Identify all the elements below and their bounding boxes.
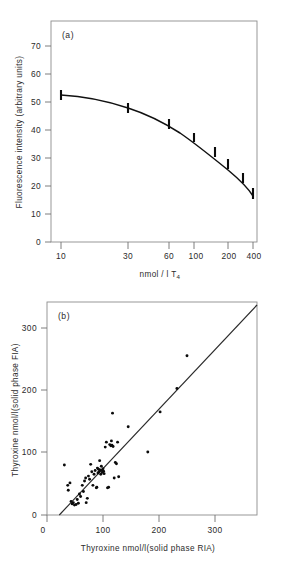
- scatter-point: [82, 490, 85, 493]
- scatter-point: [100, 465, 103, 468]
- chart-panel-b: 0 100 200 300 0 100 200 300 Thyroxine nm…: [0, 288, 282, 573]
- y-ticklabel-20: 20: [31, 181, 41, 191]
- scatter-point: [115, 462, 118, 465]
- scatter-point: [111, 412, 114, 415]
- y-ticklabel-50: 50: [31, 97, 41, 107]
- scatter-point: [175, 387, 178, 390]
- scatter-point: [87, 475, 90, 478]
- panel-b-x-axis-title: Thyroxine nmol/l(solid phase RIA): [81, 544, 215, 553]
- y-ticklabel-100: 100: [22, 447, 37, 457]
- scatter-point: [69, 481, 72, 484]
- x-ticklabel-60: 60: [164, 251, 174, 261]
- scatter-point: [90, 470, 93, 473]
- scatter-point: [94, 469, 97, 472]
- scatter-point: [186, 354, 189, 357]
- scatter-point: [78, 493, 81, 496]
- x-ticklabel-400: 400: [246, 251, 261, 261]
- scatter-point: [98, 459, 101, 462]
- y-ticklabel-10: 10: [31, 209, 41, 219]
- panel-a-y-axis: 0 10 20 30 40 50 60 70: [31, 41, 51, 247]
- x-ticklabel-30: 30: [123, 251, 133, 261]
- x-ticklabel-200: 200: [151, 525, 166, 535]
- scatter-point: [67, 489, 70, 492]
- scatter-point: [93, 473, 96, 476]
- panel-b-svg: 0 100 200 300 0 100 200 300 Thyroxine nm…: [0, 288, 282, 573]
- scatter-point: [113, 477, 116, 480]
- x-axis-title-sub: 4: [177, 273, 181, 280]
- panel-a-label: (a): [62, 30, 74, 40]
- chart-panel-a: 0 10 20 30 40 50 60 70 10 30 60 100: [0, 0, 282, 288]
- y-ticklabel-40: 40: [31, 125, 41, 135]
- scatter-point: [81, 484, 84, 487]
- scatter-point: [85, 501, 88, 504]
- scatter-point: [84, 477, 87, 480]
- y-ticklabel-60: 60: [31, 69, 41, 79]
- y-ticklabel-30: 30: [31, 153, 41, 163]
- x-ticklabel-10: 10: [56, 251, 66, 261]
- scatter-point: [105, 441, 108, 444]
- x-ticklabel-200: 200: [221, 251, 236, 261]
- panel-a-plot-frame: [51, 21, 257, 242]
- x-ticklabel-300: 300: [207, 525, 222, 535]
- y-ticklabel-200: 200: [22, 385, 37, 395]
- scatter-point: [110, 439, 113, 442]
- scatter-point: [83, 480, 86, 483]
- scatter-point: [104, 446, 107, 449]
- panel-a-y-axis-title: Fluorescence intensity (arbitrary units): [15, 56, 24, 209]
- scatter-point: [63, 464, 66, 467]
- scatter-point: [117, 475, 120, 478]
- scatter-point: [79, 495, 82, 498]
- panel-b-label: (b): [58, 311, 70, 321]
- figure-container: 0 10 20 30 40 50 60 70 10 30 60 100: [0, 0, 282, 573]
- panel-b-scatter-points: [63, 354, 189, 506]
- x-ticklabel-0: 0: [40, 525, 45, 535]
- scatter-point: [159, 410, 162, 413]
- x-axis-title-main: nmol / l T: [140, 270, 177, 279]
- scatter-point: [95, 486, 98, 489]
- panel-b-y-axis-title: Thyroxine nmol/l(solid phase FIA): [11, 343, 20, 477]
- scatter-point: [107, 486, 110, 489]
- panel-b-x-axis: 0 100 200 300: [40, 515, 222, 535]
- scatter-point: [86, 497, 89, 500]
- scatter-point: [112, 445, 115, 448]
- scatter-point: [146, 451, 149, 454]
- scatter-point: [88, 478, 91, 481]
- panel-b-regression-line: [59, 305, 257, 515]
- scatter-point: [102, 470, 105, 473]
- scatter-point: [91, 484, 94, 487]
- panel-a-data-markers: [61, 90, 253, 199]
- y-ticklabel-300: 300: [22, 323, 37, 333]
- y-ticklabel-0: 0: [32, 510, 37, 520]
- scatter-point: [102, 467, 105, 470]
- panel-b-y-axis: 0 100 200 300: [22, 323, 47, 520]
- scatter-point: [103, 472, 106, 475]
- scatter-point: [72, 501, 75, 504]
- scatter-point: [76, 498, 79, 501]
- panel-a-svg: 0 10 20 30 40 50 60 70 10 30 60 100: [0, 0, 282, 288]
- panel-b-plot-frame: [47, 302, 257, 515]
- panel-a-data-curve: [61, 95, 253, 196]
- scatter-point: [116, 441, 119, 444]
- scatter-point: [77, 502, 80, 505]
- panel-a-x-axis: 10 30 60 100 200 400: [56, 242, 262, 261]
- y-ticklabel-70: 70: [31, 41, 41, 51]
- scatter-point: [66, 484, 69, 487]
- panel-a-x-axis-title: nmol / l T4: [140, 270, 181, 280]
- y-ticklabel-0: 0: [36, 237, 41, 247]
- x-ticklabel-100: 100: [95, 525, 110, 535]
- x-ticklabel-100: 100: [188, 251, 203, 261]
- scatter-point: [127, 425, 130, 428]
- scatter-point: [89, 463, 92, 466]
